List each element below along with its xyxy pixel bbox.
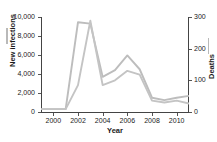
y-axis-left-tick-mark bbox=[38, 112, 41, 113]
x-axis-tick-mark bbox=[152, 113, 153, 116]
y-axis-right-tick-label: 300 bbox=[194, 13, 217, 20]
plot-area bbox=[41, 17, 189, 112]
x-axis-title: Year bbox=[41, 126, 189, 135]
dual-axis-line-chart: New infections Deaths Year 02,0004,0006,… bbox=[0, 0, 217, 142]
y-axis-left-tick-label: 0 bbox=[5, 108, 35, 115]
y-axis-left-tick-label: 8,000 bbox=[5, 32, 35, 39]
y-axis-right-tick-label: 200 bbox=[194, 45, 217, 52]
x-axis-spine bbox=[41, 112, 189, 113]
y-axis-right-tick-label: 0 bbox=[194, 108, 217, 115]
series-line-deaths bbox=[41, 21, 189, 109]
series-line-new-infections bbox=[41, 22, 189, 109]
x-axis-tick-mark bbox=[78, 113, 79, 116]
x-axis-tick-label: 2010 bbox=[162, 117, 192, 124]
y-axis-right-tick-label: 100 bbox=[194, 76, 217, 83]
x-axis-tick-mark bbox=[53, 113, 54, 116]
y-axis-left-tick-label: 2,000 bbox=[5, 89, 35, 96]
y-axis-left-tick-label: 10,000 bbox=[5, 13, 35, 20]
series-lines bbox=[41, 17, 189, 112]
x-axis-tick-mark bbox=[103, 113, 104, 116]
y-axis-right-tick-mark bbox=[189, 80, 192, 81]
y-axis-right-tick-mark bbox=[189, 112, 192, 113]
x-axis-tick-mark bbox=[177, 113, 178, 116]
y-axis-right-tick-mark bbox=[189, 17, 192, 18]
y-axis-right-tick-mark bbox=[189, 49, 192, 50]
y-axis-left-tick-label: 6,000 bbox=[5, 51, 35, 58]
x-axis-tick-mark bbox=[127, 113, 128, 116]
y-axis-left-tick-label: 4,000 bbox=[5, 70, 35, 77]
